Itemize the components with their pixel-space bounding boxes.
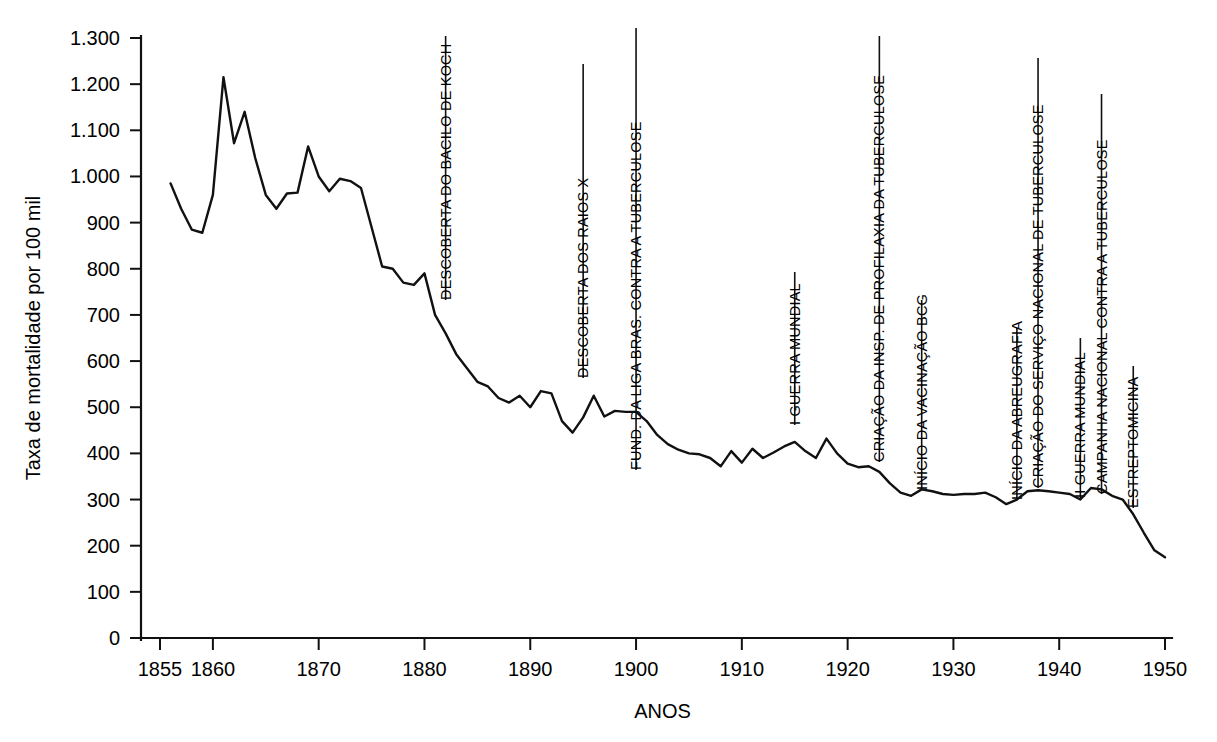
y-tick-label: 1.100 — [70, 119, 120, 141]
event-annotation: DESCOBERTA DOS RAIOS X — [575, 64, 591, 378]
y-tick-label: 0 — [109, 627, 120, 649]
x-tick-label: 1855 — [138, 658, 183, 680]
x-tick-label: 1860 — [191, 658, 236, 680]
event-annotation: FUND. DA LIGA BRAS. CONTRA A TUBERCULOSE — [628, 28, 644, 470]
y-tick-label: 700 — [87, 304, 120, 326]
event-label-text: INÍCIO DA VACINAÇÃO BCG — [914, 294, 930, 490]
event-label-text: CAMPANHA NACIONAL CONTRA A TUBERCULOSE — [1094, 139, 1110, 494]
chart-canvas: 01002003004005006007008009001.0001.1001.… — [0, 0, 1217, 742]
x-axis-ticks: 1855186018701880189019001910192019301940… — [138, 638, 1188, 680]
event-annotations: DESCOBERTA DO BACILO DE KOCHDESCOBERTA D… — [438, 28, 1142, 508]
event-annotation: II GUERRA MUNDIAL — [1072, 338, 1088, 498]
y-tick-label: 600 — [87, 350, 120, 372]
y-tick-label: 300 — [87, 489, 120, 511]
y-tick-label: 400 — [87, 442, 120, 464]
x-tick-label: 1940 — [1037, 658, 1082, 680]
y-tick-label: 800 — [87, 258, 120, 280]
event-annotation: ESTREPTOMICINA — [1125, 366, 1141, 508]
event-annotation: CRIAÇÃO DO SERVIÇO NACIONAL DE TUBERCULO… — [1030, 58, 1046, 488]
tuberculosis-mortality-chart: 01002003004005006007008009001.0001.1001.… — [0, 0, 1217, 742]
x-axis-title: ANOS — [634, 700, 691, 722]
y-tick-label: 200 — [87, 535, 120, 557]
y-tick-label: 900 — [87, 212, 120, 234]
event-annotation: CRIAÇÃO DA INSP. DE PROFILAXIA DA TUBERC… — [871, 36, 887, 462]
event-label-text: I GUERRA MUNDIAL — [787, 283, 803, 425]
y-axis-ticks: 01002003004005006007008009001.0001.1001.… — [70, 27, 141, 649]
event-label-text: ESTREPTOMICINA — [1125, 376, 1141, 508]
event-label-text: INÍCIO DA ABREUGRAFIA — [1009, 321, 1025, 500]
event-label-text: CRIAÇÃO DA INSP. DE PROFILAXIA DA TUBERC… — [871, 75, 887, 462]
event-label-text: CRIAÇÃO DO SERVIÇO NACIONAL DE TUBERCULO… — [1030, 104, 1046, 488]
x-tick-label: 1910 — [720, 658, 765, 680]
y-axis-title: Taxa de mortalidade por 100 mil — [22, 196, 44, 481]
event-label-text: II GUERRA MUNDIAL — [1072, 352, 1088, 498]
x-tick-label: 1880 — [402, 658, 447, 680]
x-tick-label: 1950 — [1143, 658, 1188, 680]
x-tick-label: 1890 — [508, 658, 553, 680]
event-annotation: DESCOBERTA DO BACILO DE KOCH — [438, 36, 454, 300]
event-annotation: I GUERRA MUNDIAL — [787, 272, 803, 425]
x-tick-label: 1920 — [825, 658, 870, 680]
x-tick-label: 1870 — [296, 658, 341, 680]
y-tick-label: 100 — [87, 581, 120, 603]
event-annotation: INÍCIO DA VACINAÇÃO BCG — [914, 294, 930, 490]
event-label-text: DESCOBERTA DO BACILO DE KOCH — [438, 44, 454, 300]
y-tick-label: 1.200 — [70, 73, 120, 95]
event-annotation: INÍCIO DA ABREUGRAFIA — [1009, 321, 1025, 500]
y-tick-label: 500 — [87, 396, 120, 418]
event-label-text: DESCOBERTA DOS RAIOS X — [575, 177, 591, 378]
x-tick-label: 1900 — [614, 658, 659, 680]
y-tick-label: 1.000 — [70, 165, 120, 187]
event-annotation: CAMPANHA NACIONAL CONTRA A TUBERCULOSE — [1094, 94, 1110, 494]
y-tick-label: 1.300 — [70, 27, 120, 49]
x-tick-label: 1930 — [931, 658, 976, 680]
